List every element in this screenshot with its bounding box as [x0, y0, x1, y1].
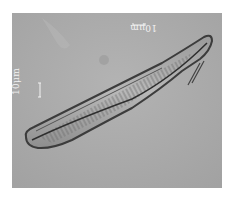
scale-label-top: 10μm [130, 23, 157, 33]
diatom-illustration [12, 13, 222, 188]
particle [99, 55, 109, 65]
micrograph-frame [12, 13, 222, 188]
scale-label-left: 10μm [11, 68, 21, 95]
